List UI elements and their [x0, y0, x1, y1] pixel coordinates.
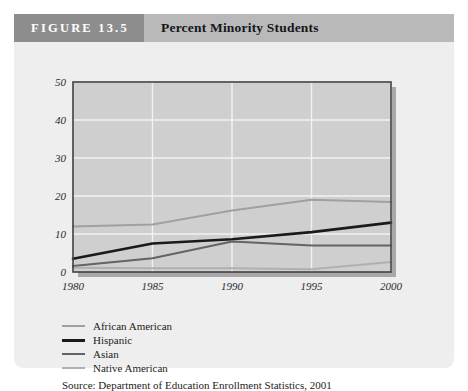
legend-item-asian[interactable]: Asian [62, 347, 322, 361]
legend-label: African American [93, 320, 172, 332]
y-axis-tick-labels: 01020304050 [54, 76, 67, 278]
legend-item-hispanic[interactable]: Hispanic [62, 333, 322, 347]
x-axis-tick-labels: 19801985199019952000 [62, 280, 403, 292]
svg-text:0: 0 [61, 266, 67, 278]
svg-text:40: 40 [55, 114, 67, 126]
figure-card: FIGURE 13.5 Percent Minority Students 01… [14, 14, 454, 368]
legend-swatch-icon [62, 367, 85, 369]
svg-text:1995: 1995 [301, 280, 324, 292]
legend-label: Hispanic [93, 334, 132, 346]
legend-swatch-icon [62, 325, 85, 327]
figure-title: Percent Minority Students [144, 20, 319, 36]
svg-text:1980: 1980 [62, 280, 85, 292]
legend-label: Native American [93, 362, 168, 374]
svg-text:50: 50 [55, 76, 67, 88]
legend-item-african-american[interactable]: African American [62, 319, 322, 333]
source-note: Source: Department of Education Enrollme… [62, 379, 332, 391]
figure-number-label: FIGURE 13.5 [14, 14, 144, 42]
chart-region: 01020304050 19801985199019952000 African… [14, 42, 454, 368]
legend-swatch-icon [62, 339, 85, 342]
svg-text:10: 10 [55, 228, 67, 240]
svg-text:2000: 2000 [380, 280, 403, 292]
svg-text:20: 20 [55, 190, 67, 202]
svg-text:1990: 1990 [221, 280, 244, 292]
figure-header: FIGURE 13.5 Percent Minority Students [14, 14, 454, 42]
svg-text:1985: 1985 [142, 280, 165, 292]
legend-label: Asian [93, 348, 119, 360]
svg-text:30: 30 [54, 152, 67, 164]
chart-legend: African AmericanHispanicAsianNative Amer… [62, 319, 322, 375]
legend-swatch-icon [62, 353, 85, 355]
legend-item-native-american[interactable]: Native American [62, 361, 322, 375]
